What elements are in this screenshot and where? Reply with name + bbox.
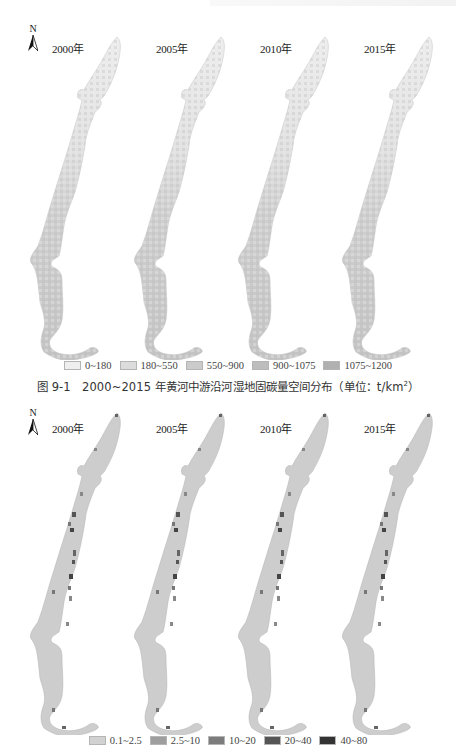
figure-second-map-series: N 2000年 2005年 2010年 2015年 xyxy=(0,400,456,752)
running-header xyxy=(210,0,456,6)
legend-swatch xyxy=(186,361,203,370)
legend-item: 550~900 xyxy=(186,360,244,371)
legend-label: 10~20 xyxy=(229,735,256,746)
legend-carbon: 0~180 180~550 550~900 900~1075 1075~1200 xyxy=(0,360,456,371)
legend-swatch xyxy=(323,361,340,370)
legend-label: 0.1~2.5 xyxy=(110,735,142,746)
maps-carbon xyxy=(0,20,456,360)
legend-item: 0~180 xyxy=(64,360,112,371)
legend-swatch xyxy=(252,361,269,370)
legend-swatch xyxy=(64,361,81,370)
caption-number: 图 9-1 xyxy=(37,380,71,394)
legend-label: 40~80 xyxy=(340,735,367,746)
legend-item: 0.1~2.5 xyxy=(89,735,142,746)
figure-caption: 图 9-1 2000~2015 年黄河中游沿河湿地固碳量空间分布（单位：t/km… xyxy=(0,378,456,394)
legend-item: 2.5~10 xyxy=(150,735,200,746)
caption-close: ） xyxy=(408,380,419,394)
legend-item: 1075~1200 xyxy=(323,360,392,371)
legend-swatch xyxy=(264,736,281,745)
legend-swatch xyxy=(319,736,336,745)
figure-carbon-sequestration: N 2000年 2005年 2010年 2015年 xyxy=(0,20,456,400)
legend-label: 0~180 xyxy=(85,360,112,371)
legend-label: 180~550 xyxy=(141,360,178,371)
maps-second xyxy=(0,400,456,735)
legend-item: 40~80 xyxy=(319,735,367,746)
legend-label: 1075~1200 xyxy=(344,360,392,371)
legend-label: 2.5~10 xyxy=(171,735,200,746)
legend-item: 180~550 xyxy=(120,360,178,371)
legend-swatch xyxy=(150,736,167,745)
legend-swatch xyxy=(208,736,225,745)
legend-item: 900~1075 xyxy=(252,360,315,371)
legend-label: 900~1075 xyxy=(273,360,315,371)
legend-label: 550~900 xyxy=(207,360,244,371)
legend-item: 10~20 xyxy=(208,735,256,746)
caption-text: 2000~2015 年黄河中游沿河湿地固碳量空间分布（单位：t/km xyxy=(82,380,403,394)
legend-second: 0.1~2.5 2.5~10 10~20 20~40 40~80 xyxy=(0,735,456,746)
legend-swatch xyxy=(89,736,106,745)
legend-swatch xyxy=(120,361,137,370)
legend-label: 20~40 xyxy=(285,735,312,746)
legend-item: 20~40 xyxy=(264,735,312,746)
